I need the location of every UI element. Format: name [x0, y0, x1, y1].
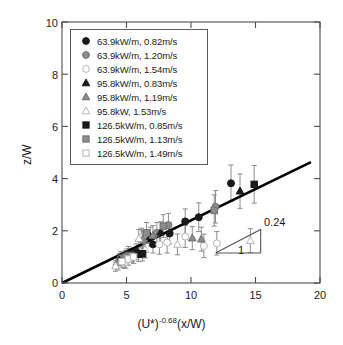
ytick-label: 0	[36, 277, 58, 289]
legend-item-label: 126.5kW/m, 0.85m/s	[97, 120, 182, 131]
x-axis-label-tail: (x/W)	[177, 317, 206, 331]
legend-item[interactable]: 63.9kW/m, 1.20m/s	[75, 48, 202, 62]
slope-rise-label: 0.24	[264, 216, 285, 228]
data-point	[236, 187, 244, 194]
ytick-label: 2	[36, 225, 58, 237]
xtick-label: 0	[50, 289, 74, 301]
ytick-label: 6	[36, 121, 58, 133]
data-point	[130, 254, 136, 260]
square-filled-icon	[75, 119, 97, 131]
legend-item[interactable]: 63.9kW/m, 1.54m/s	[75, 62, 202, 76]
legend-item-label: 95.8kW, 1.53m/s	[97, 106, 166, 117]
data-point	[200, 242, 207, 249]
x-axis-label-exponent: -0.68	[159, 316, 177, 325]
data-point	[188, 234, 196, 241]
data-point	[227, 180, 234, 187]
data-point	[139, 251, 145, 257]
data-point	[174, 240, 182, 247]
xtick-label: 20	[308, 289, 332, 301]
slope-run-label: 1	[238, 244, 244, 256]
triangle-open-icon	[75, 105, 97, 117]
legend-item-label: 95.8kW/m, 1.19m/s	[97, 92, 177, 103]
data-point	[160, 223, 166, 229]
data-point	[182, 218, 189, 225]
legend-box: 63.9kW/m, 0.82m/s63.9kW/m, 1.20m/s63.9kW…	[70, 29, 208, 165]
square-gray-icon	[75, 133, 97, 145]
xtick-label: 5	[115, 289, 139, 301]
ytick-label: 8	[36, 69, 58, 81]
legend-item[interactable]: 126.5kW/m, 0.85m/s	[75, 118, 202, 132]
data-points-layer	[112, 180, 258, 269]
ytick-label: 4	[36, 173, 58, 185]
legend-item-label: 63.9kW/m, 0.82m/s	[97, 36, 177, 47]
data-point	[166, 230, 173, 237]
data-point	[164, 239, 171, 246]
legend-item[interactable]: 126.5kW/m, 1.49m/s	[75, 146, 202, 160]
circle-filled-icon	[75, 35, 97, 47]
legend-item[interactable]: 63.9kW/m, 0.82m/s	[75, 34, 202, 48]
data-point	[213, 240, 220, 247]
legend-item[interactable]: 95.8kW, 1.53m/s	[75, 104, 202, 118]
legend-item-label: 95.8kW/m, 0.83m/s	[97, 78, 177, 89]
legend-item-label: 126.5kW/m, 1.49m/s	[97, 148, 182, 159]
data-point	[182, 233, 189, 240]
data-point	[143, 230, 149, 236]
figure-scatter-plot: 0 2 4 6 8 10 0 5 10 15 20 z/W (U*)-0.68(…	[0, 0, 343, 345]
data-point	[156, 241, 163, 248]
legend-item[interactable]: 126.5kW/m, 1.13m/s	[75, 132, 202, 146]
data-point	[195, 214, 202, 221]
legend-item[interactable]: 95.8kW/m, 0.83m/s	[75, 76, 202, 90]
legend-item-label: 126.5kW/m, 1.13m/s	[97, 134, 182, 145]
data-point	[251, 181, 257, 187]
xtick-label: 15	[244, 289, 268, 301]
triangle-filled-icon	[75, 77, 97, 89]
legend-item[interactable]: 95.8kW/m, 1.19m/s	[75, 90, 202, 104]
xtick-label: 10	[179, 289, 203, 301]
data-point	[246, 237, 254, 244]
legend-item-label: 63.9kW/m, 1.54m/s	[97, 64, 177, 75]
x-axis-label-base: (U*)	[137, 317, 158, 331]
x-axis-label: (U*)-0.68(x/W)	[0, 316, 343, 331]
circle-gray-icon	[75, 49, 97, 61]
square-open-icon	[75, 147, 97, 159]
y-axis-label: z/W	[20, 144, 34, 165]
circle-open-icon	[75, 63, 97, 75]
legend-item-label: 63.9kW/m, 1.20m/s	[97, 50, 177, 61]
ytick-label: 10	[36, 17, 58, 29]
triangle-gray-icon	[75, 91, 97, 103]
data-point	[211, 207, 217, 213]
data-point	[119, 258, 125, 264]
